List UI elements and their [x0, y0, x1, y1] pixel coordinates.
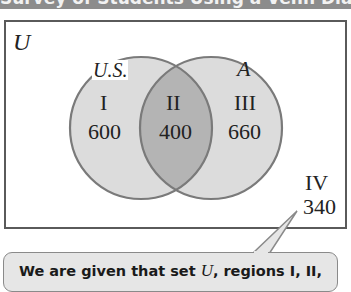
- callout-text: We are given that set U, regions I, II,: [4, 261, 337, 281]
- set-us-label: U.S.: [92, 60, 128, 80]
- explanation-callout: We are given that set U, regions I, II,: [3, 252, 338, 292]
- region-iv-value: 340: [303, 196, 336, 218]
- region-i-value: 600: [88, 121, 121, 143]
- region-iv-numeral: IV: [305, 172, 328, 194]
- region-ii-numeral: II: [166, 92, 181, 114]
- region-ii-value: 400: [159, 121, 192, 143]
- callout-pointer: [252, 211, 297, 254]
- pointer-join: [254, 251, 268, 254]
- set-a-label: A: [237, 58, 250, 80]
- universe-label: U: [13, 30, 30, 54]
- region-iii-value: 660: [228, 121, 261, 143]
- region-iii-numeral: III: [234, 92, 256, 114]
- region-i-numeral: I: [100, 92, 107, 114]
